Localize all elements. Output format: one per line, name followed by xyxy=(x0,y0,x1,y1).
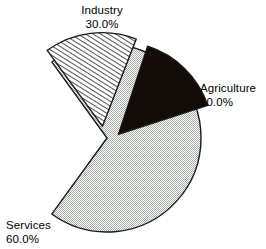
pie-chart-svg xyxy=(0,0,266,249)
pie-label-industry: Industry 30.0% xyxy=(0,4,204,31)
pie-chart-figure: Industry 30.0% Agriculture 10.0% Service… xyxy=(0,0,266,249)
pie-label-services: Services 60.0% xyxy=(6,219,51,246)
pie-label-industry-name: Industry xyxy=(0,4,204,18)
pie-slices xyxy=(47,33,208,232)
pie-label-industry-value: 30.0% xyxy=(0,18,204,32)
pie-label-services-name: Services xyxy=(6,219,51,233)
pie-label-agriculture-value: 10.0% xyxy=(200,96,256,110)
pie-label-agriculture: Agriculture 10.0% xyxy=(200,82,256,109)
pie-label-agriculture-name: Agriculture xyxy=(200,82,256,96)
pie-label-services-value: 60.0% xyxy=(6,233,51,247)
